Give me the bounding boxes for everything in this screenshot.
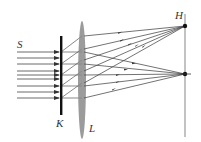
incident-rays bbox=[17, 52, 59, 98]
ray-direction-arrows bbox=[112, 32, 146, 91]
optics-diagram: S K L H bbox=[0, 0, 201, 142]
image-screen-label: H bbox=[174, 9, 184, 21]
slit-screen bbox=[60, 36, 62, 115]
lens bbox=[78, 21, 86, 139]
rays-to-lower-focus bbox=[84, 52, 185, 98]
source-label: S bbox=[17, 38, 23, 50]
upper-focal-point bbox=[183, 24, 187, 28]
slit-screen-label: K bbox=[55, 117, 64, 129]
lens-label: L bbox=[88, 122, 95, 134]
